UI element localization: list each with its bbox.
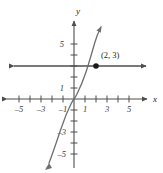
y-tick-label--5: –5 bbox=[57, 149, 67, 159]
y-tick-label-5: 5 bbox=[60, 39, 64, 49]
x-tick-label--1: –1 bbox=[58, 104, 68, 114]
x-tick-label-3: 3 bbox=[104, 104, 109, 114]
y-axis-label: y bbox=[75, 6, 80, 16]
x-tick-label-5: 5 bbox=[127, 104, 131, 114]
x-tick-label--5: –5 bbox=[14, 104, 24, 114]
y-tick-label-1: 1 bbox=[60, 83, 64, 93]
x-axis-group: –5 –3 –1 1 3 5 x bbox=[7, 94, 157, 114]
intersection-point-marker bbox=[93, 63, 99, 69]
graph-figure: –5 –3 –1 1 3 5 x bbox=[0, 0, 163, 173]
intersection-point-label: (2, 3) bbox=[101, 50, 120, 60]
coordinate-plane-svg: –5 –3 –1 1 3 5 x bbox=[0, 0, 163, 173]
x-tick-label--3: –3 bbox=[36, 104, 46, 114]
x-tick-label-1: 1 bbox=[83, 104, 87, 114]
y-axis-group: 5 1 –3 –5 y bbox=[57, 6, 81, 168]
cubic-curve-lower-arrowhead bbox=[45, 163, 52, 170]
x-axis-label: x bbox=[152, 94, 157, 104]
